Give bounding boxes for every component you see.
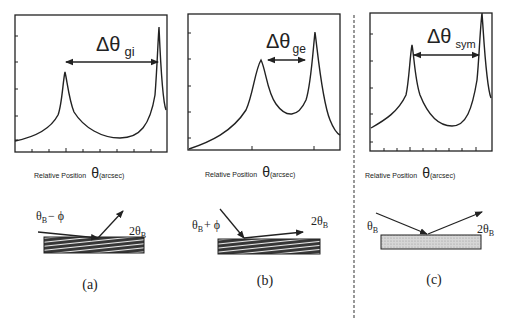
diffracted-beam-a — [98, 211, 123, 238]
panel-a: Δθgi Relative Positionθ(arcsec) θB− ϕ 2θ… — [15, 15, 167, 293]
delta-label-c: Δθsym — [427, 25, 476, 50]
rocking-curve-a — [15, 27, 166, 141]
plot-frame-a — [15, 15, 167, 152]
crystal-c — [381, 235, 481, 249]
caption-b: (b) — [257, 273, 274, 289]
caption-c: (c) — [426, 272, 442, 288]
diffracted-label-a: 2θB — [129, 224, 146, 240]
panel-b: Δθge Relative Positionθ(arcsec) θB+ ϕ 2θ… — [188, 14, 340, 289]
delta-label-b: Δθge — [266, 30, 306, 56]
incident-label-a: θB− ϕ — [36, 209, 64, 225]
axis-label-c: Relative Positionθ(arcsec) — [365, 165, 455, 181]
diffracted-beam-b — [244, 232, 303, 238]
incident-beam-b — [220, 209, 244, 238]
panel-c: Δθsym Relative Positionθ(arcsec) θB 2θB … — [365, 13, 494, 288]
axis-label-b: Relative Positionθ(arcsec) — [205, 164, 295, 180]
figure-canvas: Δθgi Relative Positionθ(arcsec) θB− ϕ 2θ… — [0, 0, 510, 335]
incident-beam-c — [376, 213, 427, 234]
rocking-curve-b — [189, 32, 340, 149]
diffracted-label-c: 2θB — [477, 222, 494, 238]
delta-label-a: Δθgi — [96, 33, 135, 59]
axis-label-a: Relative Positionθ(arcsec) — [34, 165, 124, 181]
diffracted-label-b: 2θB — [311, 214, 328, 230]
crystal-b — [218, 239, 320, 254]
plot-frame-b — [188, 14, 340, 150]
incident-label-c: θB — [367, 219, 378, 235]
caption-a: (a) — [82, 277, 98, 293]
crystal-a — [44, 237, 144, 253]
diffracted-beam-c — [428, 212, 482, 234]
incident-label-b: θB+ ϕ — [192, 218, 220, 234]
